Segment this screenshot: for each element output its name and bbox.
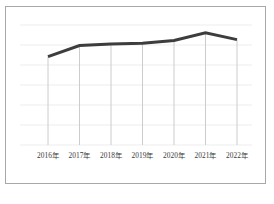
x-tick-label-2021: 2021年 <box>195 149 217 160</box>
line-chart-plot <box>0 0 274 204</box>
x-tick-label-2016: 2016年 <box>37 149 59 160</box>
chart-figure: 2016年 2017年 2018年 2019年 2020年 2021年 2022… <box>0 0 274 204</box>
x-tick-label-2019: 2019年 <box>132 149 154 160</box>
x-tick-label-2017: 2017年 <box>69 149 91 160</box>
x-tick-label-2020: 2020年 <box>163 149 185 160</box>
vertical-droplines <box>48 33 237 145</box>
x-tick-label-2018: 2018年 <box>100 149 122 160</box>
x-tick-label-2022: 2022年 <box>226 149 248 160</box>
